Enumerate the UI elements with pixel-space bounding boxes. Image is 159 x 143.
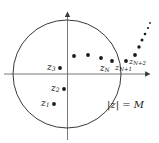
point-tail-2 xyxy=(141,39,144,42)
point-z3 xyxy=(58,66,62,70)
point-tail-1 xyxy=(137,45,140,48)
point-unlabeled-1 xyxy=(72,54,76,58)
point-tail-5 xyxy=(149,22,151,24)
point-zN xyxy=(110,59,114,63)
circle-radius-label: |z| = M xyxy=(107,100,144,110)
label-z1: z1 xyxy=(41,99,50,108)
point-tail-3 xyxy=(144,33,147,36)
point-z2 xyxy=(62,87,66,91)
point-tail-4 xyxy=(147,27,149,29)
label-z3: z3 xyxy=(47,63,56,72)
point-zN-plus-2 xyxy=(133,53,137,57)
label-zN-plus-2: zN+2 xyxy=(129,58,146,67)
label-z2: z2 xyxy=(51,84,60,93)
point-z1 xyxy=(52,102,56,106)
complex-plane-figure: z1 z2 z3 zN zN+1 zN+2 |z| = M xyxy=(0,0,159,143)
label-zN: zN xyxy=(100,64,110,74)
point-zN-plus-1 xyxy=(124,59,128,63)
point-unlabeled-2 xyxy=(86,53,90,57)
point-unlabeled-3 xyxy=(99,56,103,60)
figure-canvas xyxy=(0,0,159,143)
